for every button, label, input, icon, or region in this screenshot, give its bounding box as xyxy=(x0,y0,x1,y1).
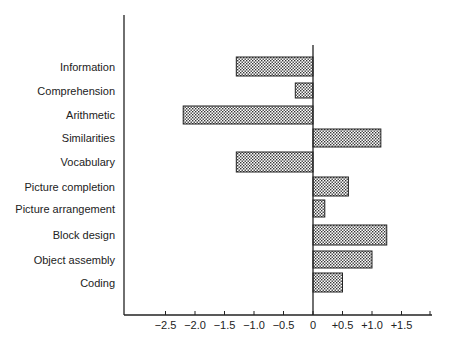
x-tick-label: +1.5 xyxy=(391,319,413,331)
category-label: Object assembly xyxy=(34,254,116,266)
category-label: Similarities xyxy=(62,132,116,144)
x-tick-label: −2.0 xyxy=(184,319,206,331)
category-label: Arithmetic xyxy=(66,109,115,121)
bar-picture-arrangement xyxy=(313,200,325,217)
x-tick-label: 0 xyxy=(310,319,316,331)
x-axis-ticks: −2.5−2.0−1.5−1.0−0.50+0.5+1.0+1.5 xyxy=(155,311,413,331)
category-label: Block design xyxy=(53,229,115,241)
bars-group xyxy=(183,57,387,292)
bar-information xyxy=(236,57,313,76)
bar-coding xyxy=(313,273,343,292)
wais-subtest-bar-chart: InformationComprehensionArithmeticSimila… xyxy=(0,0,457,348)
category-label: Picture completion xyxy=(25,181,116,193)
bar-object-assembly xyxy=(313,251,372,268)
x-tick-label: −2.5 xyxy=(155,319,177,331)
category-label: Information xyxy=(60,61,115,73)
bar-arithmetic xyxy=(183,106,313,124)
category-label: Comprehension xyxy=(37,85,115,97)
bar-block-design xyxy=(313,225,387,245)
x-tick-label: −1.0 xyxy=(243,319,265,331)
bar-similarities xyxy=(313,129,381,147)
x-tick-label: +0.5 xyxy=(332,319,354,331)
x-tick-label: −0.5 xyxy=(273,319,295,331)
category-label: Vocabulary xyxy=(61,156,116,168)
bar-comprehension xyxy=(295,83,313,98)
category-label: Picture arrangement xyxy=(15,203,115,215)
category-label: Coding xyxy=(80,277,115,289)
bar-picture-completion xyxy=(313,177,348,196)
x-tick-label: +1.0 xyxy=(361,319,383,331)
category-labels: InformationComprehensionArithmeticSimila… xyxy=(15,61,115,289)
x-tick-label: −1.5 xyxy=(214,319,236,331)
bar-vocabulary xyxy=(236,152,313,172)
